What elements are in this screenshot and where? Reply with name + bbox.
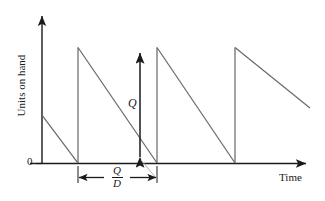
cycle-time-label: Q D (104, 165, 130, 189)
order-quantity-label: Q (128, 97, 137, 109)
cycle-time-denominator: D (104, 178, 130, 190)
cycle-time-numerator: Q (104, 165, 130, 177)
q-leader-line (141, 160, 156, 178)
figure-canvas (0, 0, 325, 201)
inventory-sawtooth-figure: Units on hand 0 Time Q Q D (0, 0, 325, 201)
inventory-level-curve (42, 48, 310, 164)
x-axis-label: Time (279, 172, 302, 183)
y-axis-label: Units on hand (16, 41, 27, 131)
origin-label: 0 (27, 156, 33, 167)
